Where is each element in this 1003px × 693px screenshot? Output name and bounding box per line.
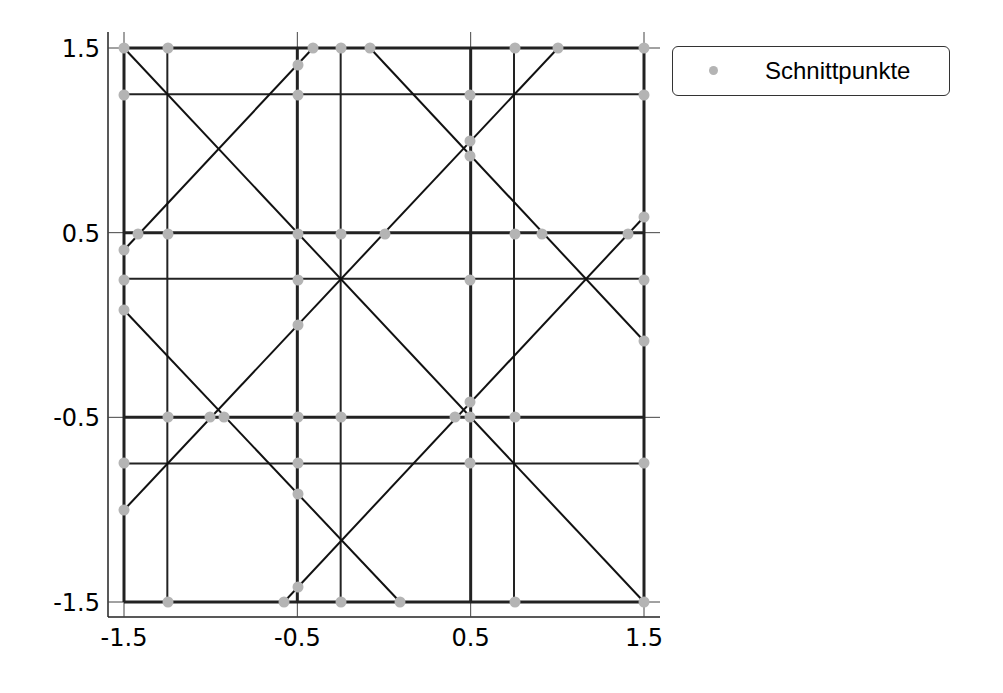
intersection-point <box>293 582 304 593</box>
y-tick-label: 0.5 <box>62 220 100 248</box>
intersection-point <box>639 458 650 469</box>
x-tick-label: 0.5 <box>452 624 490 652</box>
intersection-point <box>119 43 130 54</box>
intersection-point <box>163 43 174 54</box>
intersection-point <box>639 43 650 54</box>
intersection-point <box>293 229 304 240</box>
intersection-point <box>465 458 476 469</box>
intersection-point <box>365 43 376 54</box>
intersection-point <box>293 458 304 469</box>
intersection-point <box>537 229 548 240</box>
intersection-point <box>510 412 521 423</box>
intersection-point <box>465 397 476 408</box>
intersection-point <box>293 90 304 101</box>
intersection-point <box>465 136 476 147</box>
intersection-point <box>510 43 521 54</box>
legend-marker-icon <box>709 66 718 75</box>
intersection-point <box>553 43 564 54</box>
diagonal-lines <box>124 48 644 602</box>
intersection-point <box>219 412 230 423</box>
y-tick-label: -1.5 <box>53 589 100 617</box>
intersection-point <box>119 505 130 516</box>
x-tick-label: 1.5 <box>625 624 663 652</box>
intersection-point <box>119 458 130 469</box>
intersection-point <box>639 336 650 347</box>
intersection-point <box>336 229 347 240</box>
intersection-point <box>293 320 304 331</box>
intersection-point <box>639 90 650 101</box>
chart-canvas: -1.5-0.50.51.5 1.50.5-0.5-1.5 <box>0 0 1003 693</box>
intersection-point <box>510 597 521 608</box>
intersection-point <box>639 275 650 286</box>
intersection-point <box>133 229 144 240</box>
intersection-point <box>119 305 130 316</box>
diagonal-line <box>124 48 644 602</box>
intersection-point <box>465 90 476 101</box>
intersection-point <box>119 275 130 286</box>
intersection-point <box>163 597 174 608</box>
intersection-point <box>510 229 521 240</box>
intersection-point <box>639 597 650 608</box>
legend-label: Schnittpunkte <box>765 57 910 85</box>
y-tick-label: -0.5 <box>53 404 100 432</box>
y-tick-label: 1.5 <box>62 35 100 63</box>
intersection-point <box>465 412 476 423</box>
intersection-point <box>395 597 406 608</box>
intersection-point <box>639 212 650 223</box>
intersection-point <box>336 597 347 608</box>
x-tick-label: -1.5 <box>101 624 148 652</box>
intersection-point <box>308 43 319 54</box>
intersection-point <box>465 151 476 162</box>
intersection-point <box>293 489 304 500</box>
intersection-point <box>279 597 290 608</box>
x-tick-labels: -1.5-0.50.51.5 <box>101 624 664 652</box>
legend: Schnittpunkte <box>672 46 950 96</box>
intersection-point <box>623 229 634 240</box>
intersection-point <box>380 229 391 240</box>
intersection-point <box>336 43 347 54</box>
intersection-point <box>336 412 347 423</box>
y-tick-labels: 1.50.5-0.5-1.5 <box>53 35 100 617</box>
intersection-point <box>293 60 304 71</box>
x-tick-label: -0.5 <box>274 624 321 652</box>
intersection-point <box>293 412 304 423</box>
diagonal-line <box>124 310 400 602</box>
diagonal-line <box>370 48 644 341</box>
intersection-point <box>205 412 216 423</box>
intersection-point <box>293 275 304 286</box>
intersection-point <box>450 412 461 423</box>
intersection-point <box>119 245 130 256</box>
intersection-point <box>119 90 130 101</box>
intersection-point <box>163 229 174 240</box>
intersection-point <box>465 275 476 286</box>
intersection-point <box>163 412 174 423</box>
